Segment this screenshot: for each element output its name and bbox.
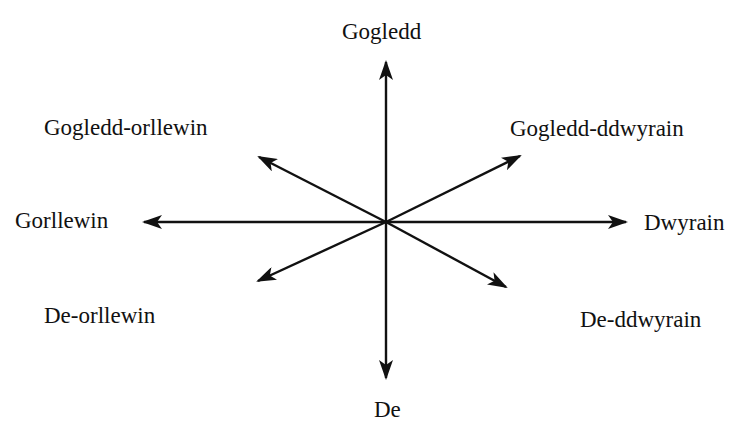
arrow-northeast — [386, 156, 520, 222]
label-west: Gorllewin — [15, 209, 108, 232]
arrow-southeast — [386, 222, 506, 287]
label-south: De — [374, 398, 401, 421]
compass-arrows — [0, 0, 754, 438]
label-northeast: Gogledd-ddwyrain — [510, 117, 684, 140]
compass-rose-diagram: Gogledd Gogledd-ddwyrain Dwyrain De-ddwy… — [0, 0, 754, 438]
label-east: Dwyrain — [644, 211, 724, 234]
arrow-northwest — [259, 157, 386, 222]
arrow-southwest — [258, 222, 386, 281]
label-southwest: De-orllewin — [44, 304, 155, 327]
label-northwest: Gogledd-orllewin — [44, 116, 208, 139]
label-north: Gogledd — [342, 20, 421, 43]
label-southeast: De-ddwyrain — [580, 308, 701, 331]
